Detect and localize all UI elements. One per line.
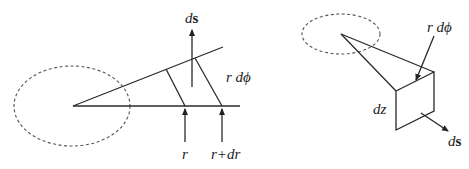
left-ds-label: ds [185, 10, 199, 26]
left-r-dphi-label: r dϕ [226, 69, 251, 85]
diagram-canvas: ds r dϕ r r+dr r dϕ dz ds [0, 0, 469, 169]
left-r-label: r [182, 146, 188, 162]
left-upper-ray [73, 47, 223, 106]
left-cross-line-r [166, 69, 185, 106]
left-r-plus-dr-label: r+dr [211, 146, 240, 162]
right-surface-element [396, 72, 434, 130]
right-ray-to-top-left [341, 34, 396, 91]
diagram-svg: ds r dϕ r r+dr r dϕ dz ds [0, 0, 469, 169]
left-cross-line-r-dr [195, 58, 222, 106]
right-ds-label: ds [448, 133, 462, 149]
right-ds-arrow [421, 113, 448, 131]
right-figure: r dϕ dz ds [302, 14, 462, 149]
right-dz-label: dz [373, 101, 387, 117]
right-r-dphi-label: r dϕ [427, 19, 452, 35]
left-figure: ds r dϕ r r+dr [14, 10, 251, 162]
